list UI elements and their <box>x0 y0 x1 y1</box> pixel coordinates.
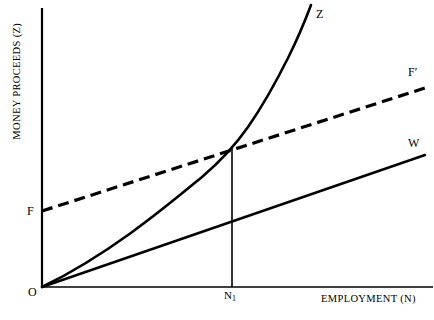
w-line <box>42 155 425 287</box>
f-intercept-label: F <box>27 205 34 217</box>
w-line-label: W <box>408 137 419 149</box>
z-curve <box>42 5 311 287</box>
f-prime-line-label: F′ <box>408 66 417 78</box>
origin-label: O <box>28 286 37 298</box>
x-axis-title: EMPLOYMENT (N) <box>321 294 416 305</box>
n1-subscript: 1 <box>232 294 236 303</box>
z-curve-label: Z <box>316 8 323 20</box>
equilibrium-employment-label: N1 <box>224 290 236 301</box>
chart-plot-area <box>0 0 434 320</box>
aggregate-supply-demand-figure: MONEY PROCEEDS (Z) EMPLOYMENT (N) Z F′ W… <box>0 0 434 320</box>
y-axis-title: MONEY PROCEEDS (Z) <box>12 6 23 156</box>
n1-base: N <box>224 289 232 301</box>
f-prime-line <box>42 88 425 211</box>
